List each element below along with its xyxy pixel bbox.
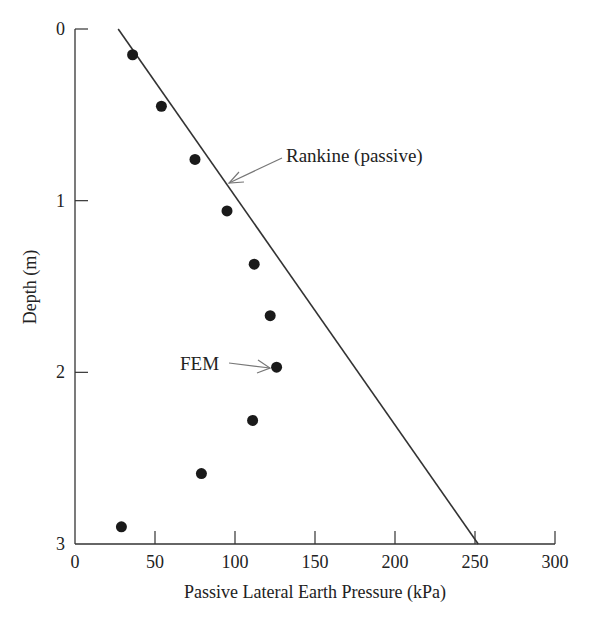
y-tick-label: 1 [56, 191, 65, 211]
fem-points [116, 49, 282, 532]
x-tick-label: 250 [462, 552, 489, 572]
y-tick-label: 0 [56, 19, 65, 39]
rankine-line [118, 29, 478, 544]
x-tick-label: 50 [146, 552, 164, 572]
fem-data-point [222, 205, 233, 216]
tick-labels: 0501001502002503000123 [56, 19, 569, 572]
fem-data-point [156, 101, 167, 112]
x-tick-label: 150 [302, 552, 329, 572]
x-tick-label: 200 [382, 552, 409, 572]
y-tick-label: 2 [56, 362, 65, 382]
rankine-passive-line [118, 29, 478, 544]
y-tick-label: 3 [56, 534, 65, 554]
x-tick-label: 300 [542, 552, 569, 572]
fem-data-point [271, 362, 282, 373]
chart-canvas: 0501001502002503000123 Rankine (passive)… [0, 0, 591, 623]
fem-data-point [249, 259, 260, 270]
rankine-annotation-label: Rankine (passive) [286, 145, 423, 167]
fem-data-point [247, 415, 258, 426]
fem-data-point [116, 521, 127, 532]
x-tick-label: 0 [71, 552, 80, 572]
fem-data-point [127, 49, 138, 60]
fem-data-point [196, 468, 207, 479]
x-tick-label: 100 [222, 552, 249, 572]
fem-data-point [265, 310, 276, 321]
y-axis-title: Depth (m) [20, 250, 41, 324]
tick-marks [75, 29, 555, 544]
fem-data-point [190, 154, 201, 165]
x-axis-title: Passive Lateral Earth Pressure (kPa) [184, 582, 446, 603]
axes [75, 29, 555, 544]
fem-annotation-label: FEM [180, 353, 219, 374]
annotations: Rankine (passive) FEM [180, 145, 423, 374]
rankine-arrow [229, 158, 282, 183]
